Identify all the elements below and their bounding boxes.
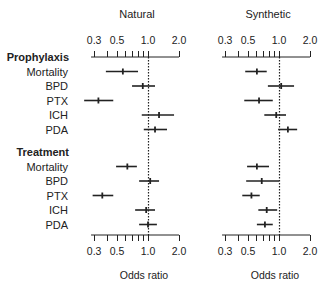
estimate-prophylaxis-pda — [144, 127, 167, 133]
estimate-prophylaxis-mortality — [245, 69, 266, 75]
estimate-prophylaxis-bpd — [268, 83, 294, 89]
estimate-treatment-pda — [257, 222, 273, 228]
estimate-treatment-ich — [258, 207, 277, 213]
forest-plot: ProphylaxisMortalityBPDPTXICHPDATreatmen… — [0, 0, 327, 288]
row-label-prophylaxis-mortality: Mortality — [26, 66, 68, 78]
row-label-prophylaxis-pda: PDA — [45, 124, 68, 136]
panels: Natural0.30.51.02.00.30.51.02.0Odds rati… — [84, 8, 317, 281]
x-axis-title: Odds ratio — [120, 269, 169, 281]
estimate-prophylaxis-mortality — [106, 69, 138, 75]
tick-label: 0.5 — [110, 34, 125, 46]
estimate-prophylaxis-ich — [264, 112, 286, 118]
tick-label: 0.3 — [87, 245, 102, 257]
tick-label: 2.0 — [303, 245, 318, 257]
estimate-treatment-ptx — [93, 193, 114, 199]
tick-label: 0.5 — [241, 34, 256, 46]
row-label-treatment-ptx: PTX — [47, 190, 69, 202]
tick-label: 2.0 — [303, 34, 318, 46]
top-axis: 0.30.51.02.0 — [87, 34, 187, 57]
tick-label: 0.3 — [87, 34, 102, 46]
group-label-prophylaxis: Prophylaxis — [7, 51, 69, 63]
x-axis-title: Odds ratio — [251, 269, 300, 281]
panel-natural: Natural0.30.51.02.00.30.51.02.0Odds rati… — [84, 8, 186, 281]
estimate-prophylaxis-bpd — [132, 83, 155, 89]
group-label-treatment: Treatment — [16, 146, 69, 158]
row-labels: ProphylaxisMortalityBPDPTXICHPDATreatmen… — [7, 51, 70, 231]
row-label-treatment-ich: ICH — [49, 204, 68, 216]
estimate-prophylaxis-ich — [142, 112, 174, 118]
estimate-treatment-mortality — [116, 164, 137, 170]
tick-label: 0.3 — [218, 245, 233, 257]
tick-label: 2.0 — [172, 34, 187, 46]
tick-label: 2.0 — [172, 245, 187, 257]
panel-synthetic: Synthetic0.30.51.02.00.30.51.02.0Odds ra… — [218, 8, 318, 281]
panel-title: Natural — [119, 8, 154, 20]
tick-label: 1.0 — [272, 245, 287, 257]
row-label-treatment-bpd: BPD — [45, 175, 68, 187]
estimate-treatment-pda — [139, 222, 157, 228]
tick-label: 0.3 — [218, 34, 233, 46]
tick-label: 0.5 — [110, 245, 125, 257]
estimate-treatment-ich — [135, 207, 155, 213]
row-label-prophylaxis-ich: ICH — [49, 109, 68, 121]
top-axis: 0.30.51.02.0 — [218, 34, 318, 57]
panel-title: Synthetic — [245, 8, 291, 20]
estimate-treatment-mortality — [247, 164, 269, 170]
row-label-treatment-pda: PDA — [45, 219, 68, 231]
row-label-prophylaxis-bpd: BPD — [45, 80, 68, 92]
tick-label: 1.0 — [272, 34, 287, 46]
bottom-axis: 0.30.51.02.0 — [218, 235, 318, 257]
estimate-prophylaxis-ptx — [244, 98, 273, 104]
estimate-treatment-ptx — [242, 193, 259, 199]
estimate-prophylaxis-pda — [278, 127, 297, 133]
row-label-treatment-mortality: Mortality — [26, 161, 68, 173]
estimate-treatment-bpd — [246, 178, 279, 184]
tick-label: 1.0 — [141, 245, 156, 257]
tick-label: 1.0 — [141, 34, 156, 46]
tick-label: 0.5 — [241, 245, 256, 257]
row-label-prophylaxis-ptx: PTX — [47, 95, 69, 107]
bottom-axis: 0.30.51.02.0 — [87, 235, 187, 257]
estimate-prophylaxis-ptx — [84, 98, 113, 104]
